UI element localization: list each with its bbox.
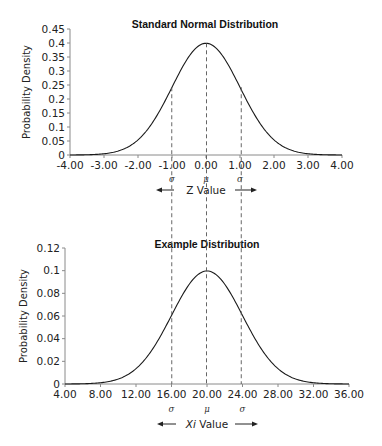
y-tick-label: 0.04 xyxy=(37,332,61,344)
x-tick-label: -4.00 xyxy=(56,159,83,171)
sigma-label: σ xyxy=(240,404,246,414)
axes: 00.020.040.060.080.10.124.008.0012.0016.… xyxy=(37,242,364,400)
y-tick-label: 0.45 xyxy=(42,23,65,35)
y-tick-label: 0.1 xyxy=(48,121,65,133)
x-axis-title-italic: Xi xyxy=(185,418,196,430)
x-axis-title-rest: Value xyxy=(196,418,228,430)
x-tick-label: 4.00 xyxy=(53,388,76,400)
y-tick-label: 0.35 xyxy=(42,51,65,63)
y-tick-label: 0.25 xyxy=(42,79,65,91)
axes: 00.050.10.150.20.250.30.350.40.45-4.00-3… xyxy=(42,23,354,171)
left-arrow-icon xyxy=(157,422,176,427)
normal-distribution-figure: Standard Normal Distribution Probability… xyxy=(0,0,382,446)
mu-label: μ xyxy=(204,404,210,414)
x-tick-label: 24.00 xyxy=(227,388,257,400)
x-tick-label: 4.00 xyxy=(330,159,353,171)
y-tick-label: 0.06 xyxy=(37,310,61,322)
x-tick-label: 3.00 xyxy=(296,159,319,171)
pdf-curve-line xyxy=(70,43,342,155)
right-arrow-icon xyxy=(235,422,258,427)
y-tick-label: 0.4 xyxy=(48,37,65,49)
pdf-curve xyxy=(70,43,342,155)
example-distribution-chart: Example Distribution Probability Density… xyxy=(18,238,364,430)
y-axis-title: Probability Density xyxy=(21,45,32,139)
chart-title: Example Distribution xyxy=(154,238,259,250)
x-tick-label: 1.00 xyxy=(228,159,251,171)
x-axis-title: Z Value xyxy=(186,184,225,196)
y-tick-label: 0.3 xyxy=(48,65,65,77)
sigma-label: σ xyxy=(237,174,243,184)
x-tick-label: 28.00 xyxy=(263,388,293,400)
y-axis-title: Probability Density xyxy=(18,269,29,363)
pdf-curve-line xyxy=(65,271,349,384)
x-tick-label: 36.00 xyxy=(334,388,364,400)
y-tick-label: 0.08 xyxy=(37,287,60,299)
y-tick-label: 0.1 xyxy=(43,264,60,276)
x-tick-label: 12.00 xyxy=(121,388,151,400)
y-tick-label: 0.02 xyxy=(37,355,60,367)
x-tick-label: 8.00 xyxy=(89,388,112,400)
sigma-label: σ xyxy=(169,404,175,414)
marker-labels: σμσ xyxy=(169,404,246,414)
x-axis-title: Xi Value xyxy=(185,418,228,430)
chart-title: Standard Normal Distribution xyxy=(132,18,278,30)
y-tick-label: 0.15 xyxy=(42,107,65,119)
right-arrow-icon xyxy=(235,188,257,193)
standard-normal-chart: Standard Normal Distribution Probability… xyxy=(21,18,354,196)
y-tick-label: 0.2 xyxy=(48,93,65,105)
x-tick-label: 20.00 xyxy=(192,388,222,400)
y-tick-label: 0.05 xyxy=(42,135,65,147)
pdf-curve xyxy=(65,271,349,384)
x-tick-label: 16.00 xyxy=(156,388,186,400)
x-tick-label: 32.00 xyxy=(298,388,328,400)
y-tick-label: 0.12 xyxy=(37,242,60,254)
x-tick-label: 2.00 xyxy=(262,159,285,171)
x-tick-label: -2.00 xyxy=(124,159,151,171)
x-tick-label: -3.00 xyxy=(90,159,117,171)
sigma-mu-guide-lines xyxy=(172,43,242,384)
x-tick-label: 0.00 xyxy=(194,159,217,171)
